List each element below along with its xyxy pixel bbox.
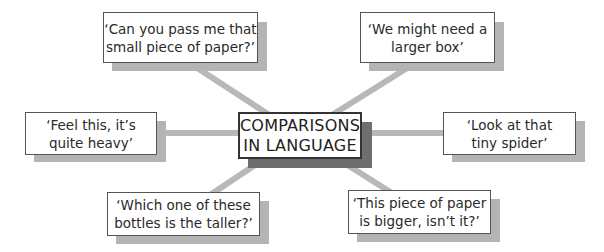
node-text-line2: small piece of paper?’ [104,38,256,56]
node-text-line1: ‘This piece of paper [353,194,486,212]
node-text-line2: is bigger, isn’t it?’ [353,212,486,230]
node-text-line2: bottles is the taller?’ [114,214,253,232]
node-box: ‘This piece of paper is bigger, isn’t it… [348,190,491,234]
node-box: ‘Feel this, it’s quite heavy’ [25,112,157,155]
node-text-line1: ‘Which one of these [114,196,253,214]
node-text-line1: ‘We might need a [368,20,487,38]
node-text-line1: ‘Look at that [467,116,552,134]
node-text-line2: larger box’ [368,38,487,56]
node-text-line1: ‘Feel this, it’s [46,116,136,134]
node-box: ‘Can you pass me that small piece of pap… [103,12,258,63]
center-title-line2: IN LANGUAGE [240,136,360,156]
node-text-line1: ‘Can you pass me that [104,20,256,38]
node-box: ‘We might need a larger box’ [360,12,495,63]
node-text-line2: quite heavy’ [46,134,136,152]
center-title-line1: COMPARISONS [240,116,360,136]
node-text-line2: tiny spider’ [467,134,552,152]
node-box: ‘Which one of these bottles is the talle… [107,192,260,236]
center-box: COMPARISONS IN LANGUAGE [238,112,362,159]
node-box: ‘Look at that tiny spider’ [443,112,576,155]
